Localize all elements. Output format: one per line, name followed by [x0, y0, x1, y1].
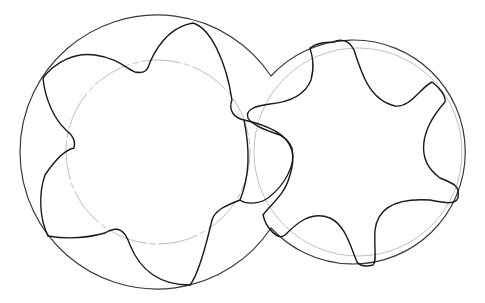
left-rotor-profile [41, 23, 248, 285]
rotor-diagram-svg [0, 0, 485, 303]
left-pitch-circle [66, 60, 250, 244]
rotor-diagram [0, 0, 485, 303]
right-pitch-circle [254, 48, 462, 256]
